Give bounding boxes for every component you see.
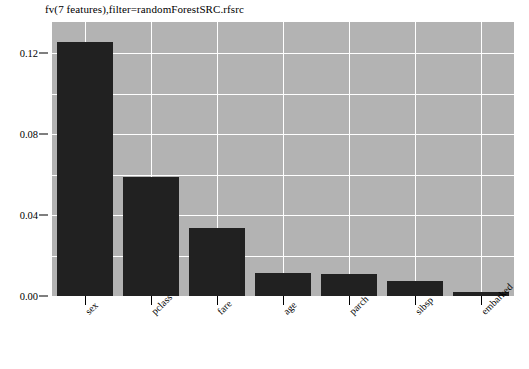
x-tick-label-parch: parch: [347, 309, 355, 317]
x-tick-mark: [217, 296, 218, 305]
x-tick-mark: [85, 296, 86, 305]
x-tick-mark: [415, 296, 416, 305]
x-tick-label-embarked: embarked: [479, 309, 487, 317]
chart-screenshot: fv(7 features),filter=randomForestSRC.rf…: [0, 0, 529, 369]
x-axis: sexpclassfareageparchsibspembarked: [0, 0, 529, 369]
x-tick-mark: [481, 296, 482, 305]
x-tick-label-age: age: [281, 309, 289, 317]
x-tick-label-sibsp: sibsp: [413, 309, 421, 317]
x-tick-mark: [349, 296, 350, 305]
x-tick-label-sex: sex: [83, 309, 91, 317]
x-tick-label-pclass: pclass: [149, 309, 157, 317]
x-tick-mark: [151, 296, 152, 305]
x-tick-label-fare: fare: [215, 309, 223, 317]
x-tick-mark: [283, 296, 284, 305]
